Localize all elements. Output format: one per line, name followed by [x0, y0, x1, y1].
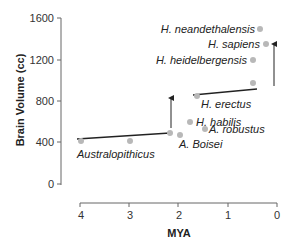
- data-point: [167, 130, 173, 136]
- label-erectus: H. erectus: [201, 98, 252, 110]
- label-sapiens: H. sapiens: [208, 38, 260, 50]
- y-tick-label: 800: [36, 95, 54, 107]
- data-point: [250, 57, 256, 63]
- x-tick-label: 3: [127, 209, 133, 221]
- x-axis-title: MYA: [167, 227, 190, 239]
- data-point: [194, 93, 200, 99]
- data-point: [78, 138, 84, 144]
- data-point: [250, 80, 256, 86]
- y-axis-title: Brain Volume (cc): [14, 53, 26, 146]
- data-point: [187, 119, 193, 125]
- y-tick-label: 1200: [30, 54, 54, 66]
- label-robustus: A. robustus: [208, 123, 265, 135]
- y-axis: 1600 1200 800 400 0 Brain Volume (cc): [14, 12, 61, 190]
- x-tick-label: 1: [225, 209, 231, 221]
- y-tick-label: 400: [36, 136, 54, 148]
- label-boisei: A. Boisei: [178, 138, 223, 150]
- label-australopithicus: Australopithicus: [76, 148, 155, 160]
- data-point: [127, 138, 133, 144]
- x-tick-label: 4: [78, 209, 84, 221]
- y-tick-label: 1600: [30, 12, 54, 24]
- data-point: [263, 41, 269, 47]
- x-tick-label: 0: [274, 209, 280, 221]
- label-heidelbergensis: H. heidelbergensis: [156, 54, 248, 66]
- x-axis: 4 3 2 1 0 MYA: [78, 203, 280, 239]
- trend-line-australopithecus: [77, 133, 170, 139]
- y-tick-label: 0: [48, 178, 54, 190]
- brain-volume-chart: 1600 1200 800 400 0 Brain Volume (cc) 4 …: [0, 0, 294, 245]
- data-point: [257, 26, 263, 32]
- label-neanderthalensis: H. neandethalensis: [161, 23, 256, 35]
- trend-line-homo: [193, 89, 257, 95]
- x-tick-label: 2: [176, 209, 182, 221]
